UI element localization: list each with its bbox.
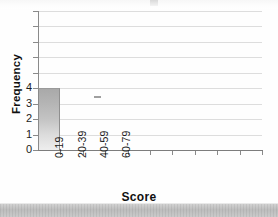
x-axis-tick-label: 0-19 (53, 137, 65, 158)
y-axis-tick (33, 26, 38, 27)
y-axis-tick (33, 88, 38, 89)
x-axis-tick (195, 151, 196, 155)
x-axis-tick (150, 151, 151, 155)
x-axis-tick (262, 151, 263, 155)
y-axis-tick (33, 150, 38, 151)
gridline (38, 26, 262, 27)
y-axis-tick (33, 135, 38, 136)
cropped-title-artifact (150, 0, 158, 6)
stray-scan-mark (94, 96, 101, 98)
gridline (38, 88, 262, 89)
y-axis-tick (33, 57, 38, 58)
y-axis-title: Frequency (10, 46, 22, 122)
x-axis-tick (217, 151, 218, 155)
y-axis-tick-label: 0 (20, 144, 32, 155)
gridline (38, 104, 262, 105)
gridline (38, 73, 262, 74)
x-axis-tick (172, 151, 173, 155)
x-axis-title: Score (0, 190, 278, 204)
plot-area (38, 11, 262, 150)
x-axis-tick-label: 40-59 (98, 131, 110, 158)
y-axis-tick-label: 1 (20, 129, 32, 140)
gridline (38, 11, 262, 12)
gridline (38, 119, 262, 120)
gridline (38, 42, 262, 43)
x-axis-tick-label: 60-79 (120, 131, 132, 158)
page-edge-strip (0, 204, 278, 217)
y-axis-tick (33, 104, 38, 105)
y-axis-tick (33, 119, 38, 120)
y-axis-tick (33, 73, 38, 74)
x-axis-tick-label: 20-39 (76, 131, 88, 158)
scan-top-band (0, 0, 278, 9)
y-axis-tick (33, 11, 38, 12)
y-axis-tick (33, 42, 38, 43)
y-axis-line (38, 11, 39, 151)
x-axis-tick (240, 151, 241, 155)
gridline (38, 57, 262, 58)
chart-page: 01234 0-1920-3940-5960-79 Frequency Scor… (0, 0, 278, 217)
gridline (38, 135, 262, 136)
